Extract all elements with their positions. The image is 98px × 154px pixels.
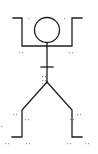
- left-leg-line: [12, 82, 47, 137]
- marker-dot: [19, 52, 20, 53]
- marker-dot: [28, 119, 29, 120]
- marker-dot: [72, 52, 73, 53]
- marker-dot: [42, 80, 43, 81]
- markers-group: [1, 18, 89, 144]
- marker-dot: [64, 18, 65, 19]
- marker-dot: [88, 143, 89, 144]
- marker-dot: [70, 143, 71, 144]
- marker-dot: [26, 143, 27, 144]
- marker-dot: [67, 143, 68, 144]
- marker-dot: [22, 52, 23, 53]
- marker-dot: [16, 114, 17, 115]
- marker-dot: [45, 76, 46, 77]
- marker-dot: [29, 143, 30, 144]
- marker-dot: [28, 18, 29, 19]
- marker-dot: [42, 83, 43, 84]
- marker-dot: [8, 143, 9, 144]
- marker-dot: [42, 76, 43, 77]
- marker-dot: [85, 143, 86, 144]
- head-circle: [35, 18, 60, 43]
- marker-dot: [5, 143, 6, 144]
- marker-dot: [69, 52, 70, 53]
- marker-dot: [70, 119, 71, 120]
- marker-dot: [13, 114, 14, 115]
- marker-dot: [80, 114, 81, 115]
- right-leg-line: [47, 82, 82, 137]
- marker-dot: [77, 114, 78, 115]
- arms-line: [13, 18, 82, 46]
- marker-dot: [25, 119, 26, 120]
- marker-dot: [1, 126, 2, 127]
- stick-figure-diagram: [0, 0, 98, 154]
- marker-dot: [73, 119, 74, 120]
- marker-dot: [45, 80, 46, 81]
